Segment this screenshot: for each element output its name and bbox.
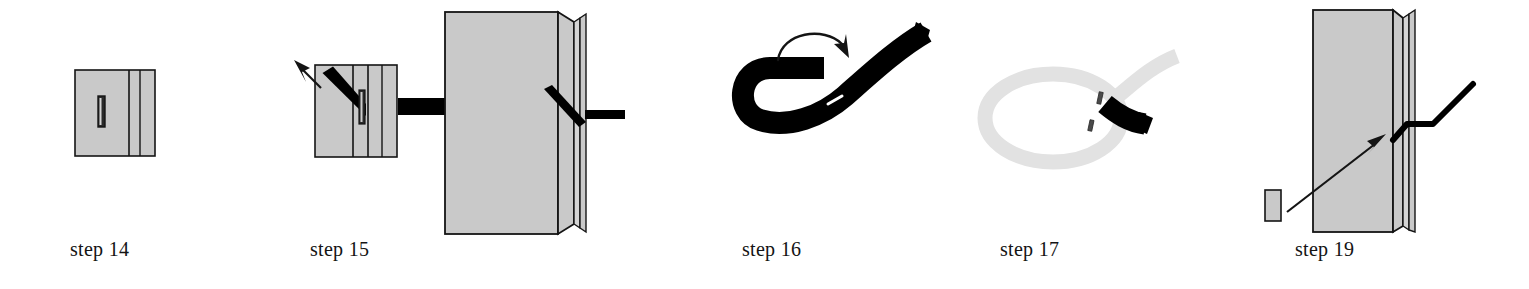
caption-step-16: step 16 bbox=[742, 238, 972, 261]
rotation-arrow bbox=[778, 34, 849, 60]
figure-strap-s-curve-with-rotation-arrow bbox=[730, 0, 960, 240]
figure-panel-perspective-with-insert-arrow bbox=[1255, 0, 1525, 245]
instruction-sheet: step 14 bbox=[0, 0, 1529, 289]
panel-step-16: step 16 bbox=[730, 0, 960, 289]
panel-step-17: step 17 bbox=[955, 0, 1205, 289]
figure-enlarged-panel-perspective-detail bbox=[440, 0, 700, 245]
detached-block bbox=[1265, 190, 1281, 221]
caption-step-19: step 19 bbox=[1295, 238, 1529, 261]
caption-step-17: step 17 bbox=[1000, 238, 1250, 261]
panel-enlarged-detail bbox=[440, 0, 700, 289]
panel-step-14: step 14 bbox=[70, 0, 270, 289]
figure-strap-loop-through-buckle bbox=[955, 0, 1205, 240]
panel-step-19: step 19 bbox=[1255, 0, 1525, 289]
caption-step-14: step 14 bbox=[70, 238, 270, 261]
figure-flat-panel-with-slot bbox=[70, 0, 270, 240]
